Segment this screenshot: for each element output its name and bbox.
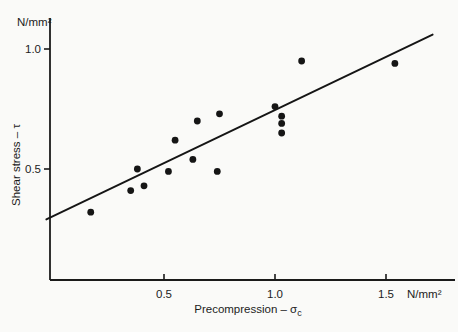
data-point [278, 120, 285, 127]
x-axis-title-subscript: c [297, 308, 302, 318]
data-point [172, 137, 179, 144]
trend-line [46, 35, 432, 220]
x-axis-unit-label: N/mm² [407, 289, 442, 301]
data-point [298, 58, 305, 65]
data-point [216, 110, 223, 117]
data-point [391, 60, 398, 67]
y-axis-tick-label: 0.5 [25, 163, 41, 175]
data-point [214, 168, 221, 175]
y-axis-tick-label: 1.0 [25, 43, 41, 55]
x-axis-tick-label: 0.5 [156, 288, 172, 300]
x-axis-tick-label: 1.0 [267, 288, 283, 300]
data-point [278, 113, 285, 120]
data-point [189, 156, 196, 163]
data-point [87, 209, 94, 216]
x-axis-title-text: Precompression – σ [194, 303, 297, 315]
scatter-plot-canvas: 0.51.01.50.51.0 [0, 0, 458, 332]
x-axis-tick-label: 1.5 [378, 288, 394, 300]
x-axis-title: Precompression – σc [156, 303, 340, 318]
data-point [134, 166, 141, 173]
data-point [165, 168, 172, 175]
data-point [278, 130, 285, 137]
data-point [127, 187, 134, 194]
data-point [141, 182, 148, 189]
y-axis-title: Shear stress – τ [8, 97, 24, 233]
scatter-chart-figure: 0.51.01.50.51.0 N/mm² N/mm² Shear stress… [0, 0, 458, 332]
data-point [272, 103, 279, 110]
y-axis-unit-label: N/mm² [17, 17, 52, 29]
data-point [194, 118, 201, 125]
